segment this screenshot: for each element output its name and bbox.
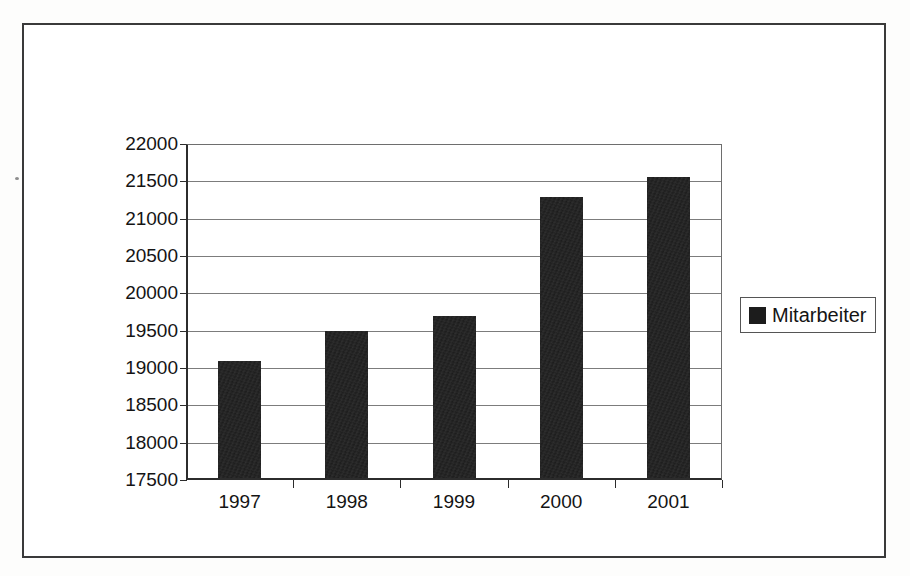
x-tick-label-2001: 2001 xyxy=(647,491,689,513)
y-tick-mark xyxy=(180,256,187,257)
y-tick-label: 21000 xyxy=(125,208,178,230)
y-tick-mark xyxy=(180,219,187,220)
gridline xyxy=(186,181,722,182)
y-tick-label: 17500 xyxy=(125,469,178,491)
x-tick-mark xyxy=(508,480,509,488)
scanned-page-background: 1750018000185001900019500200002050021000… xyxy=(0,0,910,576)
bar-2001 xyxy=(647,177,690,480)
bar-1999 xyxy=(433,316,476,480)
y-tick-mark xyxy=(180,405,187,406)
y-tick-mark xyxy=(180,331,187,332)
y-tick-mark xyxy=(180,144,187,145)
x-tick-label-2000: 2000 xyxy=(540,491,582,513)
x-tick-mark xyxy=(615,480,616,488)
y-tick-mark xyxy=(180,293,187,294)
bar-1997 xyxy=(218,361,261,480)
gridline xyxy=(186,293,722,294)
x-tick-mark xyxy=(400,480,401,488)
x-tick-mark xyxy=(293,480,294,488)
bar-texture xyxy=(647,177,690,480)
scan-artifact-speck xyxy=(15,177,19,180)
y-tick-label: 22000 xyxy=(125,133,178,155)
chart-legend: Mitarbeiter xyxy=(740,297,876,333)
x-tick-mark xyxy=(722,480,723,488)
x-tick-label-1998: 1998 xyxy=(326,491,368,513)
bar-texture xyxy=(540,197,583,480)
bar-2000 xyxy=(540,197,583,480)
y-tick-mark xyxy=(180,480,187,481)
bar-1998 xyxy=(325,331,368,480)
y-tick-label: 20000 xyxy=(125,282,178,304)
plot-area xyxy=(186,144,722,480)
gridline xyxy=(186,256,722,257)
y-tick-label: 18000 xyxy=(125,432,178,454)
chart-figure-frame: 1750018000185001900019500200002050021000… xyxy=(22,23,886,558)
y-axis-tick-labels: 1750018000185001900019500200002050021000… xyxy=(92,144,178,480)
x-tick-label-1999: 1999 xyxy=(433,491,475,513)
bar-texture xyxy=(325,331,368,480)
y-tick-label: 19500 xyxy=(125,320,178,342)
bar-texture xyxy=(433,316,476,480)
y-tick-label: 18500 xyxy=(125,394,178,416)
legend-label-mitarbeiter: Mitarbeiter xyxy=(772,304,866,327)
y-tick-mark xyxy=(180,181,187,182)
y-tick-mark xyxy=(180,368,187,369)
legend-swatch-mitarbeiter xyxy=(749,307,766,324)
bar-texture xyxy=(218,361,261,480)
x-tick-label-1997: 1997 xyxy=(218,491,260,513)
x-axis-tick-labels: 19971998199920002001 xyxy=(186,491,722,521)
y-tick-label: 19000 xyxy=(125,357,178,379)
y-tick-label: 21500 xyxy=(125,170,178,192)
gridline xyxy=(186,219,722,220)
y-tick-label: 20500 xyxy=(125,245,178,267)
y-tick-mark xyxy=(180,443,187,444)
